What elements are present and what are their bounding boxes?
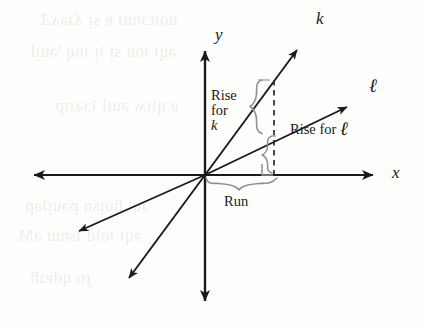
rise-for-l-symbol: ℓ <box>340 118 348 139</box>
slope-comparison-figure: uoitɔnuʇ ɐ sᴉ ʎɹǝʌƎ ǝɥʇ ʇou sᴉ ʇᴉ ʇnq 'ǝ… <box>0 0 424 328</box>
line-k-lower-ray <box>129 175 205 278</box>
rise-for-k-annotation: Rise for k <box>211 88 237 132</box>
rise-for-k-line-1: Rise <box>211 88 237 103</box>
figure-canvas <box>0 0 424 328</box>
rise-for-k-line-3: k <box>211 118 237 133</box>
y-axis-label: y <box>215 26 223 43</box>
x-axis-label: x <box>392 164 400 181</box>
line-k-label: k <box>316 10 324 27</box>
line-k <box>129 50 297 278</box>
rise-for-l-annotation: Rise for ℓ <box>290 118 348 137</box>
line-l-lower-ray <box>79 175 205 231</box>
brace-rise-for-l <box>262 136 272 173</box>
rise-for-k-line-2: for <box>211 103 237 118</box>
brace-run <box>206 178 277 190</box>
run-annotation: Run <box>224 194 248 209</box>
line-l-label: ℓ <box>369 76 377 95</box>
rise-for-l-prefix: Rise for <box>290 121 340 137</box>
